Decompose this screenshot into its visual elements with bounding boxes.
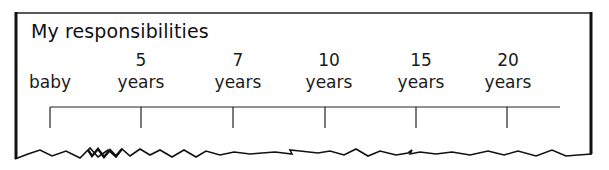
age-unit-baby: baby [5,74,95,91]
page-title: My responsibilities [31,20,209,42]
age-unit-7: years [193,74,283,91]
age-unit-20: years [463,74,553,91]
age-unit-10: years [284,74,374,91]
age-unit-5: years [96,74,186,91]
age-number-7: 7 [193,52,283,69]
age-number-15: 15 [376,52,466,69]
age-unit-15: years [376,74,466,91]
age-number-20: 20 [463,52,553,69]
age-number-5: 5 [96,52,186,69]
age-number-10: 10 [284,52,374,69]
